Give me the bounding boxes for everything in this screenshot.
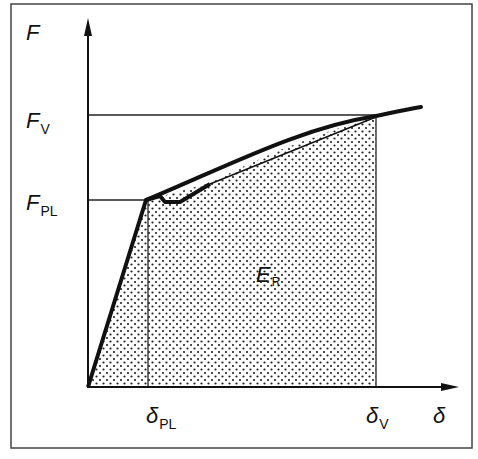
x-axis-arrow-icon bbox=[441, 383, 459, 391]
dv-label: δV bbox=[366, 405, 389, 427]
x-axis-label: δ bbox=[433, 405, 445, 427]
fv-label: FV bbox=[26, 110, 50, 132]
fpl-label: FPL bbox=[26, 192, 58, 214]
diagram-canvas bbox=[0, 0, 478, 459]
energy-label: ER bbox=[256, 264, 280, 286]
y-axis-label: F bbox=[26, 22, 39, 44]
y-axis-arrow-icon bbox=[84, 18, 92, 36]
dpl-label: δPL bbox=[146, 405, 176, 427]
